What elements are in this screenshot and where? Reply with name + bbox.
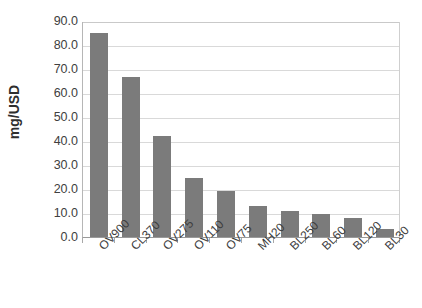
x-axis-tick-label: BL250 bbox=[287, 243, 297, 253]
x-axis-tick-label: BL30 bbox=[382, 243, 392, 253]
x-axis-tick-label: CL370 bbox=[128, 243, 138, 253]
y-axis-tick-label: 60.0 bbox=[30, 87, 78, 100]
x-axis-tick-label: OV75 bbox=[223, 243, 233, 253]
x-axis-tick-label: OV275 bbox=[160, 243, 170, 253]
bar[interactable] bbox=[90, 33, 108, 237]
y-axis-tick-label: 20.0 bbox=[30, 183, 78, 196]
y-axis-tick-label: 40.0 bbox=[30, 135, 78, 148]
y-axis-tick-labels: 90.080.070.060.050.040.030.020.010.00.0 bbox=[30, 0, 78, 308]
y-axis-tick-label: 80.0 bbox=[30, 39, 78, 52]
y-axis-tick-label: 0.0 bbox=[30, 231, 78, 244]
y-axis-tick-label: 10.0 bbox=[30, 207, 78, 220]
bar-slot bbox=[337, 22, 369, 237]
bar-slot bbox=[369, 22, 401, 237]
y-axis-tick-label: 70.0 bbox=[30, 63, 78, 76]
bar-slot bbox=[274, 22, 306, 237]
bar-slot bbox=[242, 22, 274, 237]
x-axis-tick-labels: OV900CL370OV275OV110OV75MH20BL250BL60BL1… bbox=[82, 243, 400, 305]
y-axis-tick-label: 50.0 bbox=[30, 111, 78, 124]
y-axis-tick-label: 90.0 bbox=[30, 15, 78, 28]
bar-slot bbox=[83, 22, 115, 237]
bar-chart: mg/USD 90.080.070.060.050.040.030.020.01… bbox=[0, 0, 422, 308]
bar-slot bbox=[178, 22, 210, 237]
plot-area bbox=[82, 22, 400, 238]
x-axis-tick-label: MH20 bbox=[255, 243, 265, 253]
bar[interactable] bbox=[122, 77, 140, 237]
x-axis-tick-label: BL120 bbox=[350, 243, 360, 253]
bar-slot bbox=[115, 22, 147, 237]
y-axis-tick-label: 30.0 bbox=[30, 159, 78, 172]
x-axis-tick-label: BL60 bbox=[319, 243, 329, 253]
x-axis-tick-label: OV110 bbox=[191, 243, 201, 253]
bar-slot bbox=[147, 22, 179, 237]
x-axis-tick-label: OV900 bbox=[96, 243, 106, 253]
bar-series bbox=[83, 22, 399, 237]
y-axis-title: mg/USD bbox=[6, 72, 22, 152]
bar-slot bbox=[210, 22, 242, 237]
bar-slot bbox=[306, 22, 338, 237]
